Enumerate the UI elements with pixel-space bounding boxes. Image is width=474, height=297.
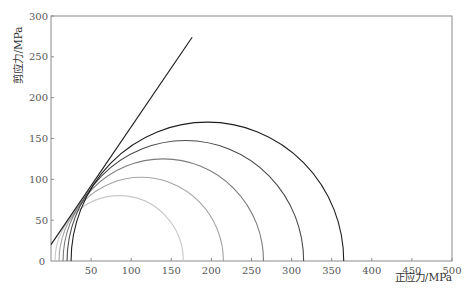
mohr-circle-chart: 050100150200250300350400450500 501001502… xyxy=(0,0,474,297)
y-tick-label: 50 xyxy=(35,215,48,226)
y-tick-label: 150 xyxy=(29,133,48,144)
y-axis-ticks: 50100150200250300 xyxy=(29,11,54,226)
x-axis-label: 正应力/MPa xyxy=(395,271,452,283)
y-axis-label: 剪应力/MPa xyxy=(12,26,24,83)
x-tick-label: 100 xyxy=(122,265,141,276)
x-tick-label-0: 0 xyxy=(39,256,45,267)
x-tick-label: 150 xyxy=(162,265,181,276)
x-tick-label: 200 xyxy=(202,265,221,276)
circle-1 xyxy=(55,196,183,261)
x-tick-label: 250 xyxy=(242,265,261,276)
mohr-circles xyxy=(55,122,344,261)
x-tick-label: 50 xyxy=(85,265,98,276)
y-tick-label: 100 xyxy=(29,174,48,185)
y-tick-label: 300 xyxy=(29,11,48,22)
x-tick-label: 300 xyxy=(282,265,301,276)
x-tick-label: 350 xyxy=(322,265,341,276)
x-tick-label: 400 xyxy=(362,265,381,276)
plot-frame xyxy=(51,16,452,261)
circle-3 xyxy=(63,159,264,261)
y-tick-label: 200 xyxy=(29,92,48,103)
circle-2 xyxy=(59,177,223,261)
circle-4 xyxy=(67,141,304,261)
y-tick-label: 250 xyxy=(29,51,48,62)
